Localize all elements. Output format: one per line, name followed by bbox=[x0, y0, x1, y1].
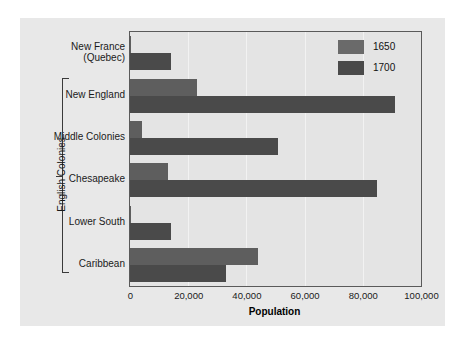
bar-1700-2 bbox=[130, 138, 278, 155]
x-tick-label-3: 60,000 bbox=[291, 290, 320, 301]
x-tick-label-1: 20,000 bbox=[174, 290, 203, 301]
x-tick-label-5: 100,000 bbox=[404, 290, 438, 301]
bar-1700-4 bbox=[130, 223, 171, 240]
x-tick-label-2: 40,000 bbox=[232, 290, 261, 301]
category-label-line1: Lower South bbox=[21, 216, 125, 228]
bracket-bottom-tip bbox=[62, 272, 69, 273]
english-colonies-bracket: English Colonies bbox=[50, 78, 68, 273]
legend: 16501700 bbox=[338, 38, 414, 80]
category-label-line1: Middle Colonies bbox=[21, 131, 125, 143]
bar-1650-1 bbox=[130, 79, 197, 96]
category-label-line1: New France bbox=[21, 41, 125, 53]
plot-area: 16501700 bbox=[129, 31, 422, 287]
category-label-1: New England bbox=[21, 89, 125, 101]
bracket-top-tip bbox=[62, 78, 69, 79]
bar-1650-4 bbox=[130, 206, 131, 223]
category-label-line2: (Quebec) bbox=[21, 52, 125, 64]
bar-1700-3 bbox=[130, 180, 377, 197]
category-label-5: Caribbean bbox=[21, 258, 125, 270]
bar-1700-1 bbox=[130, 96, 395, 113]
x-axis-tick-labels: 020,00040,00060,00080,000100,000 bbox=[129, 290, 420, 304]
category-label-4: Lower South bbox=[21, 216, 125, 228]
legend-swatch-1650 bbox=[338, 40, 364, 54]
legend-item-1650[interactable]: 1650 bbox=[338, 38, 414, 55]
chart-figure: New France(Quebec)New EnglandMiddle Colo… bbox=[20, 18, 445, 326]
bracket-label: English Colonies bbox=[56, 114, 67, 234]
legend-item-1700[interactable]: 1700 bbox=[338, 59, 414, 76]
category-label-3: Chesapeake bbox=[21, 173, 125, 185]
category-label-2: Middle Colonies bbox=[21, 131, 125, 143]
bar-1650-0 bbox=[130, 36, 131, 53]
x-tick-label-4: 80,000 bbox=[349, 290, 378, 301]
gridline bbox=[305, 32, 306, 286]
category-axis-labels: New France(Quebec)New EnglandMiddle Colo… bbox=[20, 18, 129, 326]
bar-1650-2 bbox=[130, 121, 142, 138]
bar-1700-0 bbox=[130, 53, 171, 70]
bar-1700-5 bbox=[130, 265, 226, 282]
bar-1650-3 bbox=[130, 163, 168, 180]
legend-swatch-1700 bbox=[338, 61, 364, 75]
x-tick-label-0: 0 bbox=[128, 290, 133, 301]
x-axis-title: Population bbox=[129, 306, 420, 317]
category-label-line1: Caribbean bbox=[21, 258, 125, 270]
legend-label-1650: 1650 bbox=[373, 41, 395, 52]
category-label-0: New France(Quebec) bbox=[21, 41, 125, 64]
legend-label-1700: 1700 bbox=[373, 62, 395, 73]
category-label-line1: New England bbox=[21, 89, 125, 101]
bar-1650-5 bbox=[130, 248, 258, 265]
category-label-line1: Chesapeake bbox=[21, 173, 125, 185]
